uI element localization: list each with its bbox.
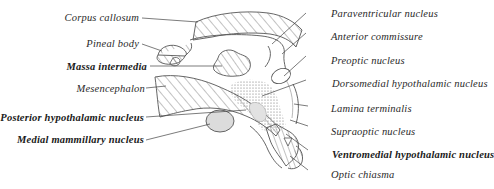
label-paraventricular-nucleus: Paraventricular nucleus	[331, 8, 438, 20]
optic-chiasma-shape	[250, 124, 303, 169]
label-massa-intermedia: Massa intermedia	[67, 61, 148, 73]
label-preoptic-nucleus: Preoptic nucleus	[331, 55, 405, 67]
label-optic-chiasma: Optic chiasma	[331, 169, 395, 181]
mammillary-body-shape	[206, 110, 234, 132]
anterior-commissure-shape	[269, 65, 293, 86]
label-anterior-commissure: Anterior commissure	[331, 31, 423, 43]
label-supraoptic-nucleus: Supraoptic nucleus	[331, 126, 415, 138]
label-medial-mammillary-nucleus: Medial mammillary nucleus	[17, 134, 144, 146]
pineal-body-shape	[157, 43, 192, 66]
label-mesencephalon: Mesencephalon	[77, 83, 146, 95]
label-pineal-body: Pineal body	[86, 38, 139, 50]
label-ventromedial-hypothalamic-nucleus: Ventromedial hypothalamic nucleus	[332, 149, 494, 161]
corpus-callosum-shape	[193, 12, 302, 47]
label-corpus-callosum: Corpus callosum	[65, 12, 139, 24]
label-lamina-terminalis: Lamina terminalis	[331, 103, 412, 115]
label-dorsomedial-hypothalamic-nucleus: Dorsomedial hypothalamic nucleus	[332, 78, 488, 90]
massa-intermedia-shape	[213, 50, 250, 76]
label-posterior-hypothalamic-nucleus: Posterior hypothalamic nucleus	[0, 112, 144, 124]
